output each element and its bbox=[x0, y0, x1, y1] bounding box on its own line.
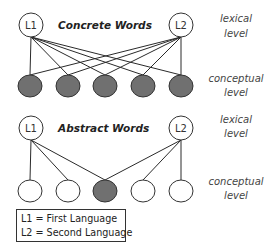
conceptual-node-4 bbox=[131, 75, 155, 97]
lexical-node-label-l1: L1 bbox=[25, 20, 37, 31]
connection-line bbox=[31, 37, 68, 75]
connection-line bbox=[68, 37, 181, 75]
lexical-level-label-2a: lexical bbox=[220, 114, 252, 125]
lexical-node-label-l2: L2 bbox=[175, 123, 187, 134]
connection-line bbox=[30, 140, 31, 180]
conceptual-node-3 bbox=[93, 180, 117, 202]
legend-box: L1 = First Language L2 = Second Language bbox=[16, 209, 126, 242]
conceptual-node-5 bbox=[169, 180, 193, 202]
connection-line bbox=[31, 140, 105, 180]
conceptual-node-1 bbox=[18, 180, 42, 202]
legend-item-l2: L2 = Second Language bbox=[21, 226, 121, 240]
connection-line bbox=[143, 140, 181, 180]
connection-line bbox=[105, 140, 181, 180]
lexical-level-label-1b: level bbox=[224, 28, 248, 39]
lexical-node-label-l1: L1 bbox=[25, 123, 37, 134]
connection-line bbox=[31, 37, 143, 75]
lexical-node-label-l2: L2 bbox=[175, 20, 187, 31]
conceptual-level-label-1a: conceptual bbox=[208, 73, 263, 84]
conceptual-node-5 bbox=[169, 75, 193, 97]
conceptual-node-3 bbox=[93, 75, 117, 97]
lexical-level-label-1a: lexical bbox=[220, 13, 252, 24]
conceptual-node-4 bbox=[131, 180, 155, 202]
connection-line bbox=[143, 37, 181, 75]
legend-item-l1: L1 = First Language bbox=[21, 212, 121, 226]
abstract-connections bbox=[30, 140, 181, 180]
concrete-connections bbox=[30, 37, 181, 75]
connection-line bbox=[105, 37, 181, 75]
conceptual-node-1 bbox=[18, 75, 42, 97]
conceptual-node-2 bbox=[56, 75, 80, 97]
connection-line bbox=[31, 140, 68, 180]
abstract-conceptual-nodes bbox=[18, 180, 193, 202]
conceptual-node-2 bbox=[56, 180, 80, 202]
connection-line bbox=[30, 37, 31, 75]
concrete-words-title: Concrete Words bbox=[58, 19, 152, 31]
conceptual-level-label-1b: level bbox=[224, 87, 248, 98]
conceptual-level-label-2b: level bbox=[224, 190, 248, 201]
connection-line bbox=[31, 37, 105, 75]
lexical-level-label-2b: level bbox=[224, 128, 248, 139]
abstract-words-title: Abstract Words bbox=[57, 122, 149, 134]
conceptual-level-label-2a: conceptual bbox=[208, 176, 263, 187]
concrete-conceptual-nodes bbox=[18, 75, 193, 97]
